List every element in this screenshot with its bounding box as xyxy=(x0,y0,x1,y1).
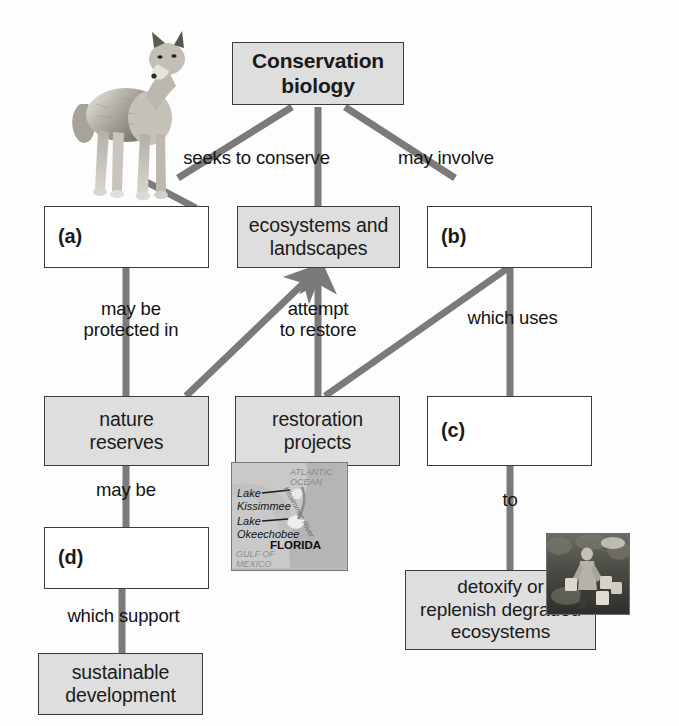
worker-photo xyxy=(546,533,630,615)
map-label-florida: FLORIDA xyxy=(270,539,321,551)
map-label-gulf-of-mexico: GULF OF MEXICO xyxy=(236,549,275,569)
map-label-lake-kissimmee: Lake Kissimmee xyxy=(237,487,291,513)
link-label-attempt-to-restore: attempt to restore xyxy=(253,298,383,341)
node-d-blank[interactable]: (d) xyxy=(44,527,209,589)
link-label-to: to xyxy=(490,489,530,510)
node-ecosystems-and-landscapes[interactable]: ecosystems and landscapes xyxy=(237,206,400,268)
wolf-photo xyxy=(68,12,190,208)
node-label: (b) xyxy=(441,225,466,249)
link-label-which-uses: which uses xyxy=(450,307,575,328)
link-label-which-support: which support xyxy=(46,605,201,626)
concept-map-canvas: ATLANTIC OCEAN Kissimmee River Lake Kiss… xyxy=(0,0,679,726)
map-label-lake-okeechobee: Lake Okeechobee xyxy=(237,515,299,541)
node-sustainable-development[interactable]: sustainable development xyxy=(38,653,203,715)
node-conservation-biology[interactable]: Conservation biology xyxy=(232,42,404,105)
node-label: sustainable development xyxy=(65,661,176,707)
node-nature-reserves[interactable]: nature reserves xyxy=(44,396,209,466)
link-label-may-involve: may involve xyxy=(381,147,511,168)
florida-inset-map: ATLANTIC OCEAN Kissimmee River Lake Kiss… xyxy=(231,462,348,571)
node-label: ecosystems and landscapes xyxy=(249,214,389,260)
link-label-may-be-protected-in: may be protected in xyxy=(56,298,206,341)
node-label: (d) xyxy=(58,546,83,570)
node-b-blank[interactable]: (b) xyxy=(427,206,592,268)
node-restoration-projects[interactable]: restoration projects xyxy=(235,396,400,466)
node-a-blank[interactable]: (a) xyxy=(44,206,209,268)
link-label-seeks-to-conserve: seeks to conserve xyxy=(169,147,344,168)
node-label: (a) xyxy=(58,225,82,249)
node-c-blank[interactable]: (c) xyxy=(427,396,592,466)
node-label: nature reserves xyxy=(90,408,164,454)
node-label: (c) xyxy=(441,419,465,443)
link-label-may-be: may be xyxy=(81,479,171,500)
node-label: restoration projects xyxy=(272,408,363,454)
map-label-atlantic-ocean: ATLANTIC OCEAN xyxy=(290,467,333,487)
node-label: Conservation biology xyxy=(252,49,384,99)
